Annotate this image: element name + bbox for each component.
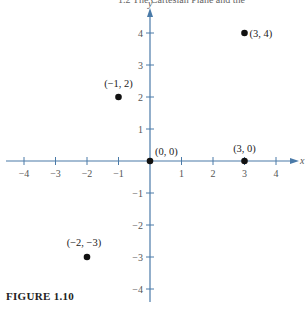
x-tick-label: −2 <box>82 168 93 179</box>
x-tick-label: −1 <box>113 168 124 179</box>
data-point <box>147 158 154 165</box>
point-label: (3, 4) <box>250 28 273 40</box>
x-axis-label: x <box>299 155 305 166</box>
data-point <box>84 254 91 261</box>
x-tick-label: −4 <box>19 168 30 179</box>
figure-caption: FIGURE 1.10 <box>6 290 74 302</box>
data-point <box>241 158 248 165</box>
x-tick-label: 4 <box>274 168 279 179</box>
y-tick-label: −3 <box>132 252 143 263</box>
x-tick-label: 1 <box>179 168 184 179</box>
cartesian-plot: xy−4−3−2−11234−4−3−2−11234(3, 4)(−1, 2)(… <box>0 0 306 309</box>
point-label: (−1, 2) <box>104 78 133 90</box>
x-axis-arrow-icon <box>290 158 299 164</box>
y-tick-label: 1 <box>138 124 143 135</box>
y-tick-label: −4 <box>132 284 143 295</box>
data-point <box>241 30 248 37</box>
y-axis-label: y <box>147 0 153 9</box>
x-tick-label: 3 <box>242 168 247 179</box>
y-tick-label: 2 <box>138 92 143 103</box>
data-point <box>115 94 122 101</box>
point-label: (−2, −3) <box>67 237 102 249</box>
x-tick-label: −3 <box>50 168 61 179</box>
x-tick-label: 2 <box>211 168 216 179</box>
y-tick-label: −1 <box>132 188 143 199</box>
point-label: (3, 0) <box>233 143 256 155</box>
y-axis-arrow-icon <box>147 8 153 17</box>
y-tick-label: −2 <box>132 220 143 231</box>
y-tick-label: 4 <box>138 28 143 39</box>
point-label: (0, 0) <box>155 146 178 158</box>
y-tick-label: 3 <box>138 60 143 71</box>
